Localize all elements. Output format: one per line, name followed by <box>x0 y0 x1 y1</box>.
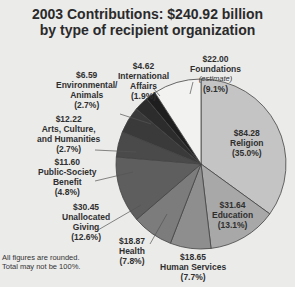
label-amount: $18.65 <box>160 252 226 262</box>
label-human-services: $18.65 Human Services (7.7%) <box>160 252 226 282</box>
label-pct: (13.1%) <box>212 220 253 230</box>
label-amount: $84.28 <box>230 128 264 138</box>
label-amount: $22.00 <box>190 54 241 64</box>
label-name: International <box>118 71 169 81</box>
label-name: Unallocated <box>62 212 110 222</box>
label-name: Arts, Culture, <box>37 124 100 134</box>
label-name: Affairs <box>118 81 169 91</box>
label-international: $4.62 International Affairs (1.9%) <box>118 61 169 101</box>
label-education: $31.64 Education (13.1%) <box>212 200 253 230</box>
footnote-line2: Total may not be 100%. <box>2 262 80 271</box>
label-name: Religion <box>230 138 264 148</box>
label-pct: (9.1%) <box>190 84 241 94</box>
label-unallocated: $30.45 Unallocated Giving (12.6%) <box>62 202 110 242</box>
label-name: Human Services <box>160 262 226 272</box>
label-pct: (7.7%) <box>160 272 226 282</box>
label-pct: (12.6%) <box>62 232 110 242</box>
footnote: All figures are rounded. Total may not b… <box>2 253 80 271</box>
label-pct: (2.7%) <box>37 144 100 154</box>
label-amount: $18.87 <box>119 236 145 246</box>
label-name: Benefit <box>38 177 97 187</box>
label-amount: $4.62 <box>118 61 169 71</box>
footnote-line1: All figures are rounded. <box>2 253 80 262</box>
label-public-society: $11.60 Public-Society Benefit (4.8%) <box>38 157 97 197</box>
label-name: Animals <box>56 90 117 100</box>
label-name: Public-Society <box>38 167 97 177</box>
label-name: Education <box>212 210 253 220</box>
label-amount: $11.60 <box>38 157 97 167</box>
label-pct: (1.9%) <box>118 91 169 101</box>
label-pct: (7.8%) <box>119 256 145 266</box>
label-name: Foundations <box>190 64 241 74</box>
label-foundations: $22.00 Foundations (estimate) (9.1%) <box>190 54 241 94</box>
label-amount: $30.45 <box>62 202 110 212</box>
label-environmental: $6.59 Environmental/ Animals (2.7%) <box>56 70 117 110</box>
label-arts: $12.22 Arts, Culture, and Humanities (2.… <box>37 114 100 154</box>
label-pct: (4.8%) <box>38 187 97 197</box>
label-health: $18.87 Health (7.8%) <box>119 236 145 266</box>
label-pct: (2.7%) <box>56 100 117 110</box>
label-pct: (35.0%) <box>230 148 264 158</box>
label-note: (estimate) <box>190 74 241 84</box>
label-religion: $84.28 Religion (35.0%) <box>230 128 264 158</box>
label-name: Environmental/ <box>56 80 117 90</box>
label-name: Giving <box>62 222 110 232</box>
label-name: and Humanities <box>37 134 100 144</box>
label-amount: $31.64 <box>212 200 253 210</box>
label-amount: $12.22 <box>37 114 100 124</box>
label-name: Health <box>119 246 145 256</box>
label-amount: $6.59 <box>56 70 117 80</box>
